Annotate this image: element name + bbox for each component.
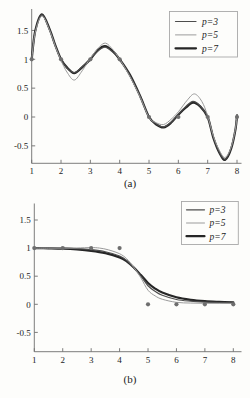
chart-a-y-tick-label: 0.5 bbox=[17, 83, 29, 93]
chart-b-x-tick-label: 7 bbox=[203, 355, 208, 365]
chart-b-data-point bbox=[32, 246, 36, 250]
chart-a-x-tick-label: 8 bbox=[235, 166, 240, 176]
chart-a-data-point bbox=[147, 115, 151, 119]
chart-b-data-point bbox=[146, 302, 150, 306]
chart-a-data-point bbox=[206, 115, 210, 119]
chart-a-x-tick-label: 3 bbox=[88, 166, 93, 176]
chart-a-data-point bbox=[235, 115, 239, 119]
chart-b-curve-p3 bbox=[34, 248, 233, 303]
chart-b-data-point bbox=[117, 246, 121, 250]
chart-b-curve-p7 bbox=[34, 248, 233, 302]
figure: 12345678-0.500.511.5p=3p=5p=712345678-0.… bbox=[0, 0, 250, 398]
chart-a-legend-label: p=3 bbox=[201, 17, 218, 27]
chart-b-caption: (b) bbox=[10, 373, 250, 385]
chart-b-legend-label: p=5 bbox=[209, 218, 226, 228]
chart-a-x-tick-label: 1 bbox=[29, 166, 34, 176]
chart-a-data-point bbox=[118, 57, 122, 61]
chart-a-data-point bbox=[88, 57, 92, 61]
chart-b-x-tick-label: 5 bbox=[146, 355, 151, 365]
chart-a-y-tick-label: 1.5 bbox=[17, 26, 29, 36]
charts-svg: 12345678-0.500.511.5p=3p=5p=712345678-0.… bbox=[0, 0, 250, 398]
chart-b-x-tick-label: 3 bbox=[89, 355, 94, 365]
chart-b-y-tick-label: -0.5 bbox=[17, 328, 32, 338]
chart-b-data-point bbox=[203, 302, 207, 306]
chart-a-x-tick-label: 4 bbox=[117, 166, 122, 176]
chart-a-x-tick-label: 6 bbox=[176, 166, 181, 176]
chart-a-x-tick-label: 7 bbox=[205, 166, 210, 176]
chart-a-legend-label: p=7 bbox=[201, 44, 219, 54]
chart-b-data-point bbox=[61, 246, 65, 250]
chart-b-x-tick-label: 8 bbox=[231, 355, 236, 365]
chart-a-y-tick-label: -0.5 bbox=[14, 141, 29, 151]
chart-b-y-tick-label: 1 bbox=[26, 243, 31, 253]
chart-b-y-tick-label: 0.5 bbox=[20, 271, 32, 281]
chart-b-legend-label: p=7 bbox=[209, 232, 227, 242]
chart-b-x-tick-label: 2 bbox=[60, 355, 65, 365]
chart-a-y-tick-label: 0 bbox=[24, 112, 29, 122]
chart-b-x-tick-label: 6 bbox=[174, 355, 179, 365]
chart-b-x-tick-label: 1 bbox=[32, 355, 37, 365]
chart-a-data-point bbox=[176, 115, 180, 119]
chart-a-data-point bbox=[30, 57, 34, 61]
chart-b-data-point bbox=[231, 302, 235, 306]
chart-a-data-point bbox=[59, 57, 63, 61]
chart-a-y-tick-label: 1 bbox=[24, 55, 29, 65]
chart-b-x-tick-label: 4 bbox=[117, 355, 122, 365]
chart-b-data-point bbox=[89, 246, 93, 250]
chart-b-y-tick-label: 1.5 bbox=[20, 215, 32, 225]
chart-a-caption: (a) bbox=[10, 177, 250, 189]
chart-b-y-tick-label: 0 bbox=[26, 300, 31, 310]
chart-a-legend-label: p=5 bbox=[201, 30, 218, 40]
chart-b-data-point bbox=[174, 302, 178, 306]
chart-a-x-tick-label: 5 bbox=[147, 166, 152, 176]
chart-b-curve-p5 bbox=[34, 248, 233, 304]
chart-b-legend-label: p=3 bbox=[209, 205, 226, 215]
chart-a-x-tick-label: 2 bbox=[59, 166, 64, 176]
